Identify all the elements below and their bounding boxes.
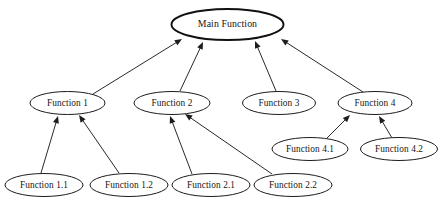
edge-line bbox=[286, 42, 363, 92]
node-label: Function 1 bbox=[47, 98, 88, 108]
node-main[interactable]: Main Function bbox=[172, 9, 284, 40]
edge-line bbox=[190, 117, 272, 174]
node-label: Main Function bbox=[198, 18, 257, 29]
node-label: Function 4.2 bbox=[375, 144, 423, 154]
arrowhead-icon bbox=[174, 39, 182, 45]
arrowhead-icon bbox=[281, 39, 289, 45]
node-label: Function 4.1 bbox=[286, 144, 334, 154]
edge-line bbox=[180, 47, 200, 91]
node-label: Function 2.1 bbox=[187, 180, 235, 190]
node-f22[interactable]: Function 2.2 bbox=[254, 174, 332, 197]
arrowhead-icon bbox=[170, 116, 176, 124]
node-label: Function 2.2 bbox=[269, 180, 317, 190]
edge-f22-to-f2 bbox=[185, 114, 272, 174]
node-label: Function 4 bbox=[354, 98, 395, 108]
node-f41[interactable]: Function 4.1 bbox=[272, 138, 348, 161]
node-f42[interactable]: Function 4.2 bbox=[361, 138, 438, 161]
node-f3[interactable]: Function 3 bbox=[243, 92, 316, 115]
diagram-canvas: Main FunctionFunction 1Function 2Functio… bbox=[0, 0, 443, 211]
edge-f3-to-main bbox=[255, 41, 276, 91]
edge-f21-to-f2 bbox=[170, 116, 192, 174]
node-f21[interactable]: Function 2.1 bbox=[172, 174, 250, 197]
node-label: Function 2 bbox=[151, 98, 192, 108]
node-f4[interactable]: Function 4 bbox=[338, 92, 412, 115]
arrowhead-icon bbox=[379, 116, 385, 124]
arrowhead-icon bbox=[79, 115, 86, 123]
edge-f4-to-main bbox=[281, 39, 363, 92]
edge-line bbox=[41, 122, 56, 173]
edge-f12-to-f1 bbox=[79, 115, 119, 173]
edge-line bbox=[257, 47, 276, 91]
arrowhead-icon bbox=[185, 114, 193, 121]
edge-line bbox=[172, 122, 192, 174]
edge-line bbox=[93, 42, 177, 94]
arrowhead-icon bbox=[53, 116, 59, 124]
edge-line bbox=[327, 119, 346, 138]
node-f1[interactable]: Function 1 bbox=[30, 92, 105, 115]
edge-f1-to-main bbox=[93, 39, 182, 94]
arrowhead-icon bbox=[255, 41, 261, 49]
edge-line bbox=[382, 121, 392, 138]
node-layer: Main FunctionFunction 1Function 2Functio… bbox=[5, 9, 438, 197]
function-hierarchy-diagram: Main FunctionFunction 1Function 2Functio… bbox=[0, 0, 443, 211]
node-f12[interactable]: Function 1.2 bbox=[90, 174, 168, 197]
node-label: Function 1.2 bbox=[105, 180, 153, 190]
edge-f2-to-main bbox=[180, 42, 203, 91]
edge-line bbox=[82, 120, 119, 173]
node-label: Function 1.1 bbox=[20, 180, 68, 190]
edge-f11-to-f1 bbox=[41, 116, 59, 173]
edge-f42-to-f4 bbox=[379, 116, 392, 138]
node-label: Function 3 bbox=[258, 98, 299, 108]
edge-f41-to-f4 bbox=[327, 115, 350, 138]
node-f11[interactable]: Function 1.1 bbox=[5, 174, 83, 197]
node-f2[interactable]: Function 2 bbox=[134, 92, 210, 115]
